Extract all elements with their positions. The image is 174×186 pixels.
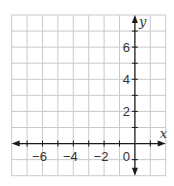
tick-labels: −6−4−2642 [32,40,130,163]
y-tick-label: 2 [123,104,130,119]
y-axis-down-arrow-icon [132,168,138,176]
x-tick-label: −4 [63,149,78,164]
y-axis-up-arrow-icon [132,15,138,23]
x-axis-label: x [160,126,168,141]
coordinate-plane: −6−4−2642 x y 0 [0,0,174,186]
y-tick-label: 4 [123,72,130,87]
x-axis-right-arrow-icon [158,141,166,147]
x-axis-left-arrow-icon [12,141,20,147]
y-axis-label: y [138,14,147,29]
origin-label: 0 [123,149,130,164]
x-tick-label: −2 [94,149,109,164]
x-tick-label: −6 [32,149,47,164]
y-tick-label: 6 [123,40,130,55]
